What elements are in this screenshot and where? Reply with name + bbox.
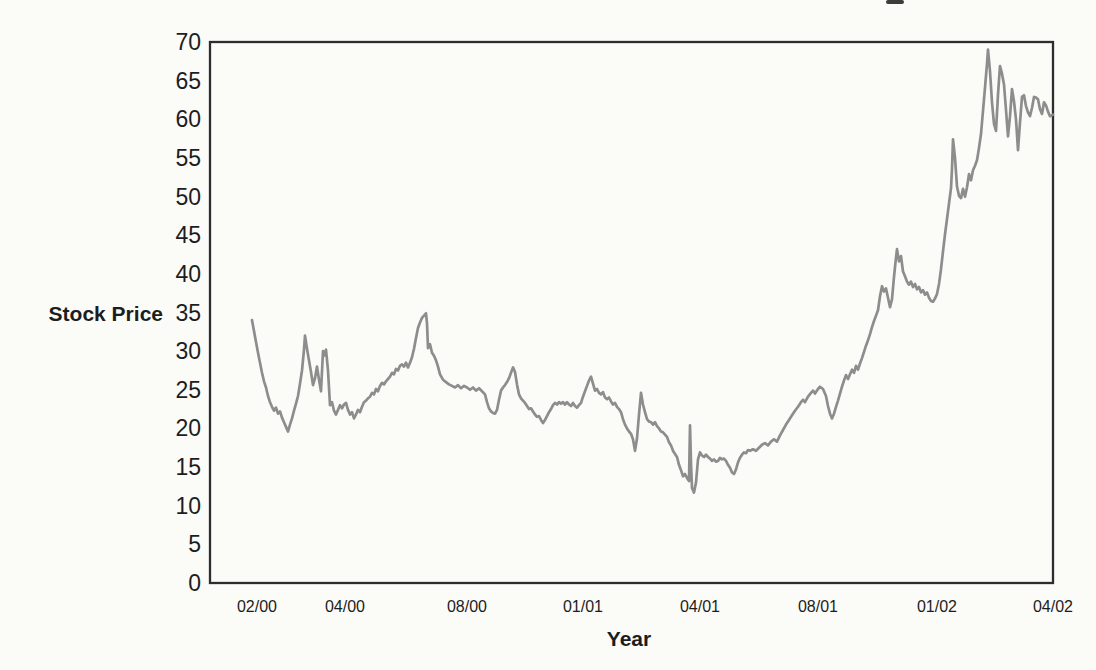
y-tick-label: 10	[175, 493, 201, 519]
x-axis-tick-labels: 02/0004/0008/0001/0104/0108/0101/0204/02	[237, 598, 1073, 615]
y-tick-label: 55	[175, 145, 201, 171]
price-line-series	[252, 50, 1053, 493]
y-tick-label: 25	[175, 377, 201, 403]
y-tick-label: 40	[175, 261, 201, 287]
x-tick-label: 04/01	[680, 598, 720, 615]
scan-artifact-mark	[886, 0, 904, 4]
x-tick-label: 02/00	[237, 598, 277, 615]
y-tick-label: 0	[188, 570, 201, 596]
chart-canvas: 0510152025303540455055606570 02/0004/000…	[0, 0, 1096, 670]
x-tick-label: 01/02	[917, 598, 957, 615]
y-axis-title: Stock Price	[49, 302, 163, 325]
y-tick-label: 65	[175, 68, 201, 94]
y-tick-label: 60	[175, 106, 201, 132]
stock-price-chart: 0510152025303540455055606570 02/0004/000…	[0, 0, 1096, 670]
x-tick-label: 08/01	[798, 598, 838, 615]
y-tick-label: 30	[175, 338, 201, 364]
y-tick-label: 35	[175, 300, 201, 326]
x-tick-label: 01/01	[563, 598, 603, 615]
y-tick-label: 45	[175, 222, 201, 248]
x-tick-label: 04/00	[325, 598, 365, 615]
y-tick-label: 5	[188, 531, 201, 557]
y-axis-tick-labels: 0510152025303540455055606570	[175, 29, 201, 596]
x-tick-label: 04/02	[1033, 598, 1073, 615]
y-tick-label: 70	[175, 29, 201, 55]
x-tick-label: 08/00	[447, 598, 487, 615]
plot-border	[210, 42, 1053, 583]
y-tick-label: 50	[175, 184, 201, 210]
x-axis-title: Year	[607, 627, 651, 650]
y-tick-label: 20	[175, 415, 201, 441]
y-tick-label: 15	[175, 454, 201, 480]
